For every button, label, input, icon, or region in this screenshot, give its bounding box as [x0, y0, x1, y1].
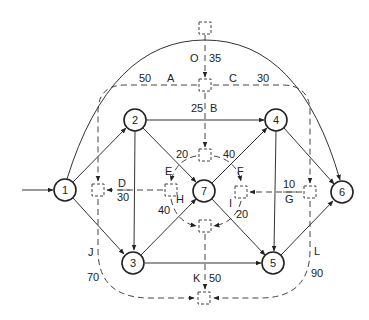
label-C: C [229, 72, 237, 84]
edge-4-6 [284, 128, 334, 184]
node-1: 1 [54, 179, 76, 201]
dummy-node-left [92, 184, 104, 196]
edge-1-2 [73, 128, 126, 182]
dummy-node-center-bottom [199, 220, 211, 232]
label-F: F [237, 165, 244, 177]
dummy-node-center-top [199, 149, 211, 161]
label-I-value: 20 [236, 208, 248, 220]
edge-2-3 [134, 131, 135, 250]
label-I: I [229, 197, 232, 209]
edge-5-6 [281, 201, 333, 255]
dummy-node-g [304, 186, 316, 198]
label-G-value: 10 [283, 178, 295, 190]
label-D: D [118, 177, 126, 189]
label-L-value: 90 [311, 267, 323, 279]
label-A: A [167, 72, 175, 84]
node-2: 2 [124, 109, 146, 131]
dummy-node-ac [199, 79, 211, 91]
label-K-value: 50 [209, 272, 221, 284]
label-O: O [190, 52, 199, 64]
label-A-value: 50 [139, 72, 151, 84]
label-B: B [210, 102, 217, 114]
svg-text:4: 4 [273, 114, 279, 126]
svg-text:1: 1 [62, 184, 68, 196]
label-J-value: 70 [87, 271, 99, 283]
dummy-node-right-inner [235, 186, 247, 198]
label-L: L [314, 245, 320, 257]
edge-1-3 [73, 198, 124, 254]
label-C-value: 30 [257, 72, 269, 84]
label-O-value: 35 [209, 52, 221, 64]
svg-text:5: 5 [270, 257, 276, 269]
node-6: 6 [331, 181, 353, 203]
dashed-edge-J [98, 199, 194, 298]
dummy-node-top [199, 22, 211, 34]
svg-text:7: 7 [201, 185, 207, 197]
dummy-node-bottom [198, 292, 210, 304]
node-7: 7 [193, 180, 215, 202]
edge-4-5 [274, 131, 276, 251]
node-3: 3 [122, 252, 144, 274]
label-K: K [193, 272, 201, 284]
label-J: J [88, 246, 94, 258]
node-5: 5 [262, 252, 284, 274]
svg-text:3: 3 [130, 257, 136, 269]
network-diagram: 1 2 3 4 5 6 7 O 35 50 A C [0, 0, 369, 320]
label-H-value: 40 [158, 204, 170, 216]
label-G: G [285, 193, 294, 205]
label-E-value: 20 [176, 148, 188, 160]
label-B-value: 25 [191, 102, 203, 114]
label-F-value: 40 [223, 148, 235, 160]
svg-text:2: 2 [132, 114, 138, 126]
svg-text:6: 6 [339, 186, 345, 198]
dashed-edge-L [214, 201, 310, 298]
label-D-value: 30 [117, 191, 129, 203]
node-4: 4 [265, 109, 287, 131]
label-E: E [165, 165, 172, 177]
label-H: H [176, 193, 184, 205]
